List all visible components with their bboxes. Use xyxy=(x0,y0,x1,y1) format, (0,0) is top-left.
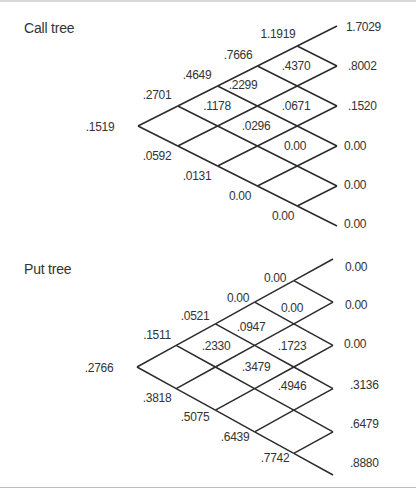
tree-edge xyxy=(138,126,178,146)
tree-edge xyxy=(297,26,337,46)
tree-edge xyxy=(137,367,176,389)
node-value: .1178 xyxy=(203,99,231,113)
node-value: .0671 xyxy=(282,99,311,113)
tree-edge xyxy=(297,166,337,186)
terminal-value: 0.00 xyxy=(344,217,367,231)
tree-edge xyxy=(215,410,254,432)
node-value: .5075 xyxy=(181,410,210,424)
tree-edge xyxy=(178,126,218,146)
terminal-value: 0.00 xyxy=(344,178,367,192)
put-tree: .2766.1511.3818.0521.2330.50750.00.0947.… xyxy=(85,259,379,475)
tree-edge xyxy=(215,389,254,411)
node-value: .0592 xyxy=(143,149,172,163)
terminal-value: .1520 xyxy=(348,99,377,113)
tree-edge xyxy=(257,166,297,186)
tree-edge xyxy=(137,345,176,367)
terminal-value: .8880 xyxy=(350,456,379,470)
bottom-divider xyxy=(0,487,416,488)
tree-edge xyxy=(297,186,337,206)
node-value: .2330 xyxy=(202,339,231,353)
terminal-value: 1.7029 xyxy=(346,20,382,34)
node-value: .2766 xyxy=(85,361,114,375)
node-value: 0.00 xyxy=(272,209,295,223)
node-value: .2299 xyxy=(229,78,258,92)
tree-edge xyxy=(218,146,258,166)
tree-edge xyxy=(178,146,218,166)
node-value: 0.00 xyxy=(229,189,252,203)
tree-edge xyxy=(294,281,333,303)
node-value: .0947 xyxy=(237,320,266,334)
terminal-value: 0.00 xyxy=(344,337,367,351)
tree-edge xyxy=(255,410,294,432)
tree-edge xyxy=(176,389,215,411)
node-value: .1723 xyxy=(278,339,307,353)
node-value: .3479 xyxy=(242,360,271,374)
node-value: .3818 xyxy=(143,391,172,405)
tree-edge xyxy=(294,432,333,454)
node-value: 0.00 xyxy=(281,301,304,315)
tree-edge xyxy=(297,206,337,226)
tree-edge xyxy=(176,367,215,389)
tree-edge xyxy=(257,186,297,206)
node-value: .1519 xyxy=(86,120,115,134)
terminal-value: .3136 xyxy=(350,378,379,392)
node-value: 0.00 xyxy=(227,291,250,305)
node-value: .4370 xyxy=(282,59,311,73)
node-value: .6439 xyxy=(221,430,250,444)
terminal-value: 0.00 xyxy=(345,260,368,274)
node-value: 0.00 xyxy=(284,139,307,153)
call-tree: .1519.2701.0592.4649.1178.0131.7666.2299… xyxy=(86,20,382,231)
binomial-trees-diagram: .1519.2701.0592.4649.1178.0131.7666.2299… xyxy=(0,0,416,499)
node-value: .7666 xyxy=(224,48,253,62)
tree-edge xyxy=(294,410,333,432)
node-value: 0.00 xyxy=(264,271,287,285)
node-value: .0296 xyxy=(242,119,271,133)
node-value: .7742 xyxy=(261,451,290,465)
tree-edge xyxy=(218,166,258,186)
node-value: 1.1919 xyxy=(261,27,297,41)
tree-edge xyxy=(294,259,333,281)
node-value: .4649 xyxy=(183,68,212,82)
terminal-value: .6479 xyxy=(350,417,379,431)
tree-edge xyxy=(294,453,333,475)
node-value: .0521 xyxy=(181,309,210,323)
node-value: .4946 xyxy=(278,379,307,393)
node-value: .0131 xyxy=(183,169,212,183)
tree-edge xyxy=(138,106,178,126)
terminal-value: 0.00 xyxy=(344,139,367,153)
node-value: .1511 xyxy=(143,328,171,342)
terminal-value: 0.00 xyxy=(345,298,368,312)
node-value: .2701 xyxy=(143,88,172,102)
terminal-value: .8002 xyxy=(348,59,377,73)
